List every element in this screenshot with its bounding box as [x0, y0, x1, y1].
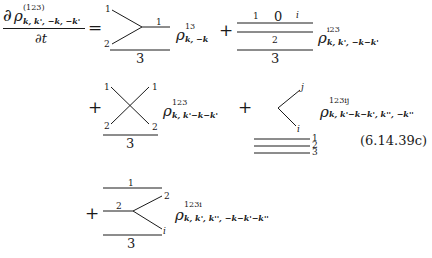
label-lower: i	[297, 124, 300, 134]
rho-subscript: k, −k	[185, 34, 208, 44]
rho-symbol: ρ	[14, 7, 23, 25]
label-top: 1	[128, 178, 134, 188]
plus-sign: +	[88, 97, 102, 117]
rho-subscript: k, k'−k−k', k'', −k''	[329, 109, 414, 119]
lhs-superscript: (123)	[23, 3, 45, 12]
fraction-bar	[3, 28, 85, 29]
label-right: 1	[156, 17, 162, 27]
equals-sign: =	[88, 17, 102, 37]
label-top-right: 1	[152, 82, 158, 92]
rho-symbol: ρ	[320, 103, 329, 121]
loop-label: 0	[274, 9, 282, 24]
rho-superscript: 123i	[184, 200, 202, 209]
label-bottom-left: 2	[104, 39, 110, 49]
rho-superscript: 123ij	[329, 96, 349, 105]
label-top-left: 1	[104, 82, 110, 92]
rho-subscript: k, k', k'', −k−k'−k''	[184, 213, 269, 223]
lhs-subscript: k, k', −k, −k'	[23, 16, 80, 26]
label-line1-left: 1	[253, 11, 259, 21]
rho-superscript: 123	[172, 98, 187, 107]
label-upper-right: 2	[164, 191, 170, 201]
rho-symbol: ρ	[163, 102, 172, 120]
plus-sign: +	[238, 97, 252, 117]
rho-symbol: ρ	[176, 26, 185, 44]
denominator: ∂t	[35, 31, 47, 46]
label-bottom: 3	[127, 236, 135, 251]
label-bottom-right: 2	[152, 122, 158, 132]
partial-symbol: ∂	[3, 5, 12, 25]
rho-superscript: i23	[327, 25, 340, 34]
label-line2: 2	[272, 35, 278, 45]
label-line3: 3	[271, 51, 279, 66]
rho-subscript: k, k', −k−k'	[327, 37, 379, 47]
label-line1-right: i	[296, 10, 299, 20]
label-upper: j	[301, 82, 304, 92]
label-bottom-left: 2	[104, 121, 110, 131]
rho-subscript: k, k'−k−k'	[172, 110, 218, 120]
label-lower-right: i	[163, 226, 166, 236]
label-top-left: 1	[105, 4, 111, 14]
label-left: 2	[116, 201, 122, 211]
rho-symbol: ρ	[318, 29, 327, 47]
label-bottom: 3	[126, 136, 134, 151]
plus-sign: +	[85, 203, 99, 223]
label-bottom: 3	[136, 51, 144, 66]
rho-symbol: ρ	[175, 206, 184, 224]
label-line3: 3	[312, 147, 318, 157]
rho-superscript: 13	[185, 22, 195, 31]
plus-sign: +	[219, 20, 233, 40]
equation-number: (6.14.39c)	[360, 133, 427, 148]
